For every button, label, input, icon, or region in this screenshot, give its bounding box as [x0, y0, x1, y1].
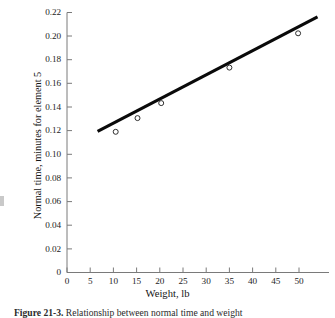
x-tick-label: 45 — [266, 277, 286, 286]
y-tick-label: 0.22 — [27, 8, 61, 17]
y-axis-title: Normal time, minutes for element 5 — [32, 21, 43, 271]
x-tick-label: 10 — [103, 277, 123, 286]
data-point — [159, 101, 164, 106]
x-tick-label: 5 — [80, 277, 100, 286]
data-point — [296, 31, 301, 36]
figure-caption-label: Figure 21-3. — [14, 307, 63, 318]
x-tick-label: 15 — [127, 277, 147, 286]
x-axis-title: Weight, lb — [0, 288, 335, 299]
x-tick-label: 50 — [289, 277, 309, 286]
x-tick-label: 20 — [150, 277, 170, 286]
data-point — [113, 129, 118, 134]
x-tick-label: 40 — [243, 277, 263, 286]
fitted-line — [98, 17, 318, 132]
figure-caption: Figure 21-3. Relationship between normal… — [14, 307, 334, 318]
data-point — [227, 65, 232, 70]
y-tick-marks — [67, 13, 72, 273]
figure-caption-text: Relationship between normal time and wei… — [66, 307, 243, 318]
x-tick-label: 0 — [57, 277, 77, 286]
x-tick-marks — [67, 268, 299, 273]
x-tick-label: 35 — [219, 277, 239, 286]
data-point-group — [113, 31, 300, 135]
x-tick-label: 30 — [196, 277, 216, 286]
figure-root: 0.22 0.20 0.18 0.16 0.14 0.12 0.10 0.08 … — [0, 0, 335, 318]
data-point — [135, 116, 140, 121]
x-tick-label: 25 — [173, 277, 193, 286]
